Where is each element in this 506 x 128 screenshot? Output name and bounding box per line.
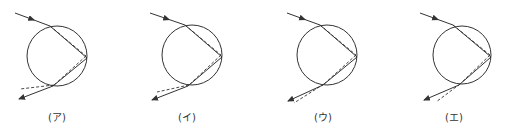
outgoing-ray-dashed	[20, 85, 54, 89]
option-label: (ア)	[48, 109, 66, 124]
outgoing-ray-solid	[288, 85, 323, 101]
incoming-ray	[420, 13, 438, 20]
incoming-ray	[15, 13, 34, 20]
option-label: (イ)	[178, 109, 196, 124]
option-panel-2	[150, 13, 222, 100]
reflected-ray-dashed	[54, 56, 86, 85]
outgoing-ray-solid	[19, 86, 53, 99]
outgoing-ray-solid	[152, 86, 188, 100]
incoming-ray	[150, 13, 169, 20]
droplet-circle	[162, 25, 222, 85]
reflected-ray-dashed	[324, 55, 356, 84]
droplet-circle	[297, 25, 357, 85]
incoming-ray	[169, 20, 185, 25]
reflected-ray-dashed	[460, 55, 490, 84]
outgoing-ray-dashed	[157, 85, 189, 92]
incoming-ray	[34, 20, 50, 26]
droplet-circle	[27, 26, 87, 86]
incoming-ray	[287, 13, 305, 20]
ray-diagram	[0, 0, 506, 128]
option-panel-4	[420, 13, 491, 102]
option-panel-1	[15, 13, 87, 99]
incoming-ray	[305, 20, 320, 25]
reflected-ray-dashed	[189, 55, 221, 85]
option-label: (エ)	[445, 109, 463, 124]
incoming-ray	[438, 20, 453, 25]
option-panel-3	[287, 13, 357, 103]
droplet-circle	[433, 26, 491, 84]
option-label: (ウ)	[314, 109, 332, 124]
outgoing-ray-solid	[424, 85, 459, 100]
outgoing-ray-dashed	[294, 84, 324, 103]
